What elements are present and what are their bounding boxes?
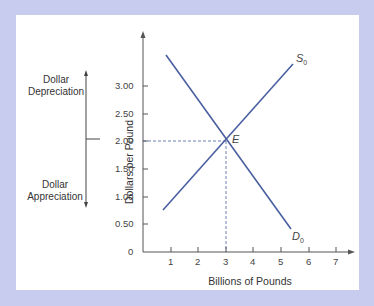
supply-label: S0: [296, 52, 307, 66]
y-tick-label: 1.00: [115, 191, 134, 202]
x-axis-label: Billions of Pounds: [190, 275, 310, 287]
y-axis-arrow-icon: [141, 31, 146, 38]
demand-label-subscript: 0: [300, 237, 304, 244]
appreciation-label-line1: Dollar: [24, 179, 86, 191]
x-axis-arrow-icon: [348, 250, 355, 255]
y-ticks: [143, 86, 148, 224]
y-tick-label: 2.50: [115, 108, 134, 119]
demand-label: D0: [292, 230, 304, 244]
equilibrium-label: E: [232, 133, 239, 145]
y-tick-label: 0.50: [115, 218, 134, 229]
y-tick-label: 3.00: [115, 80, 134, 91]
supply-curve-s0: [163, 64, 293, 210]
x-tick-label: 2: [195, 256, 200, 267]
x-tick-label: 7: [333, 256, 338, 267]
demand-label-letter: D: [292, 230, 300, 242]
x-ticks: [171, 247, 336, 252]
appreciation-label-line2: Appreciation: [24, 191, 86, 203]
chart-svg: [0, 0, 374, 306]
x-tick-label: 4: [250, 256, 255, 267]
y-tick-label: 1.50: [115, 163, 134, 174]
y-tick-label: 0: [128, 246, 133, 257]
x-tick-label: 3: [223, 256, 228, 267]
x-tick-label: 6: [306, 256, 311, 267]
depreciation-label-line1: Dollar: [26, 74, 86, 86]
x-tick-label: 5: [278, 256, 283, 267]
y-tick-label: 2.00: [115, 135, 134, 146]
supply-label-subscript: 0: [303, 59, 307, 66]
appreciation-label: Dollar Appreciation: [24, 179, 86, 203]
x-tick-label: 1: [168, 256, 173, 267]
depreciation-label: Dollar Depreciation: [26, 74, 86, 98]
demand-curve-d0: [166, 55, 291, 229]
depreciation-label-line2: Depreciation: [26, 86, 86, 98]
